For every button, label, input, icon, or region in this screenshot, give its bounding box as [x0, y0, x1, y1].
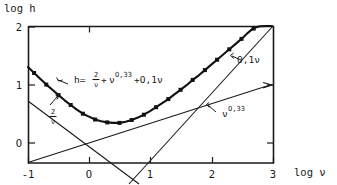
data-marker	[227, 47, 231, 51]
x-tick-label--1: -1	[22, 168, 35, 180]
nu-033-exponent: O,33	[228, 105, 245, 113]
point-one-nu-label: O,1ν	[237, 54, 260, 65]
data-marker	[93, 118, 97, 122]
data-marker	[69, 103, 73, 107]
data-marker	[130, 118, 134, 122]
data-marker	[179, 88, 183, 92]
equation-lead: h=	[74, 74, 86, 85]
data-marker	[191, 78, 195, 82]
x-tick-label-0: O	[86, 168, 92, 180]
y-tick-label-0: O	[16, 137, 22, 149]
data-marker	[252, 27, 256, 31]
equation-term2-exponent: O,33	[115, 71, 132, 79]
asymptote-nu-033	[28, 85, 270, 163]
equation-plus-one: +	[101, 74, 107, 85]
data-marker	[105, 120, 109, 124]
data-marker	[203, 68, 207, 72]
y-tick-label-2: 2	[16, 21, 22, 33]
data-marker	[32, 71, 36, 75]
data-marker	[215, 58, 219, 62]
equation-plus-two: +O,1ν	[134, 74, 163, 85]
chart-figure: -1 O 1 2 3 O 1 2 log h log ν h= 2 ν + ν …	[0, 0, 337, 185]
data-marker	[154, 105, 158, 109]
data-marker	[142, 113, 146, 117]
data-marker	[240, 37, 244, 41]
two-over-nu-denominator: ν	[51, 118, 55, 126]
x-tick-label-2: 2	[209, 168, 215, 180]
two-over-nu-numerator: 2	[51, 108, 55, 116]
y-tick-label-1: 1	[16, 79, 22, 91]
chart-svg: -1 O 1 2 3 O 1 2 log h log ν h= 2 ν + ν …	[0, 0, 337, 185]
data-marker	[118, 121, 122, 125]
x-axis-label: log ν	[294, 166, 326, 178]
x-tick-label-1: 1	[147, 168, 153, 180]
nu-033-annotation: ν O,33	[222, 105, 245, 119]
data-marker	[44, 83, 48, 87]
data-marker	[81, 112, 85, 116]
equation-denominator: ν	[94, 81, 98, 89]
equation-numerator: 2	[94, 71, 98, 79]
asymptote-point-one-nu	[129, 26, 273, 184]
y-axis-label: log h	[4, 2, 36, 14]
two-over-nu-leader-line	[50, 97, 57, 105]
data-marker	[166, 97, 170, 101]
equation-leader-arrowhead	[57, 78, 63, 82]
x-tick-label-3: 3	[270, 168, 276, 180]
nu-033-leader-line	[208, 105, 216, 112]
equation-annotation: h= 2 ν + ν O,33 +O,1ν	[74, 71, 163, 89]
